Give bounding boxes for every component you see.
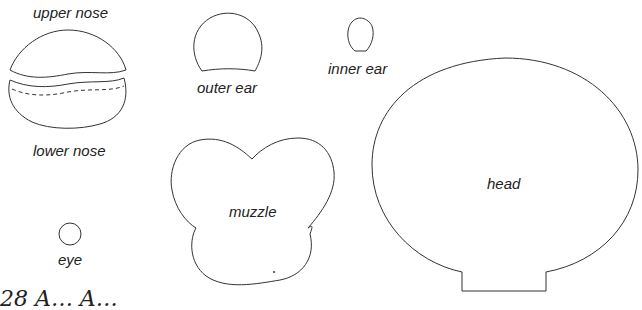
outer-ear-shape bbox=[194, 13, 262, 71]
muzzle-dot bbox=[273, 271, 275, 273]
upper-nose-shape bbox=[10, 30, 126, 77]
label-lower-nose: lower nose bbox=[33, 143, 106, 158]
page-number-fragment: 28 A… A… bbox=[0, 288, 118, 310]
lower-nose-shape bbox=[9, 78, 126, 128]
eye-shape bbox=[59, 223, 81, 245]
label-upper-nose: upper nose bbox=[33, 5, 108, 20]
label-outer-ear: outer ear bbox=[197, 80, 257, 95]
label-muzzle: muzzle bbox=[229, 204, 277, 219]
label-inner-ear: inner ear bbox=[328, 61, 387, 76]
lower-nose-seam-line bbox=[12, 86, 124, 95]
label-eye: eye bbox=[58, 252, 82, 267]
label-head: head bbox=[487, 176, 520, 191]
inner-ear-shape bbox=[348, 18, 373, 51]
